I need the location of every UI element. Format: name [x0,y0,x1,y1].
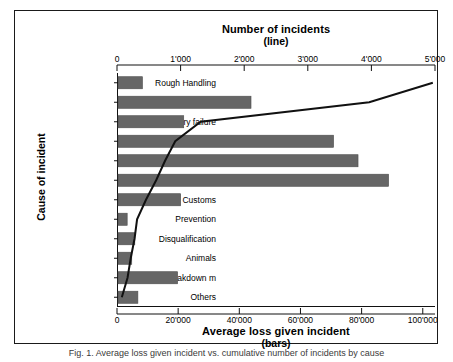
bar [118,291,138,303]
chart-figure: Number of incidents (line) Average loss … [0,0,453,362]
bar [118,135,334,147]
figure-caption: Fig. 1. Average loss given incident vs. … [0,348,453,362]
top-axis-tick-label: 3'000 [298,54,319,64]
bottom-axis-tick-label: 40'000 [227,315,252,325]
y-axis-title: Cause of incident [35,107,47,247]
bar [118,194,181,206]
chart-canvas [118,73,436,307]
top-axis-tick-label: 5'000 [425,54,446,64]
top-axis-tick-label: 1'000 [170,54,191,64]
bottom-axis-tick-label: 0 [115,315,120,325]
bottom-axis-tick-label: 20'000 [166,315,191,325]
bar [118,233,135,245]
bottom-axis-line [117,306,439,314]
bar [118,213,127,225]
top-axis-title: Number of incidents [117,23,435,35]
bar [118,77,142,89]
bottom-axis-tick-label: 80'000 [349,315,374,325]
chart-frame: Number of incidents (line) Average loss … [14,10,438,344]
incident-count-line [122,83,433,298]
top-axis-line [117,65,439,73]
bar [118,96,251,108]
top-axis-subtitle: (line) [117,35,435,47]
bottom-axis-tick-label: 100'000 [408,315,438,325]
top-axis-tick-label: 4'000 [361,54,382,64]
top-axis-tick-label: 0 [115,54,120,64]
bar [118,155,358,167]
plot-area: Rough HandlingTheftDelivery failureEnvir… [117,73,435,307]
top-axis-tick-label: 2'000 [234,54,255,64]
bottom-axis-tick-label: 60'000 [288,315,313,325]
bar [118,116,184,128]
bottom-axis-title: Average loss given incident [117,325,435,337]
